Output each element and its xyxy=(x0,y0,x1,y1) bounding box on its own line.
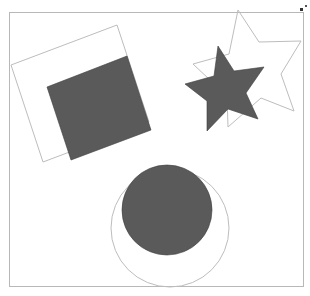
resize-handle-icon[interactable] xyxy=(300,5,307,11)
drawing-canvas[interactable] xyxy=(0,0,310,296)
filled-circle[interactable] xyxy=(122,165,212,255)
filled-star[interactable] xyxy=(185,46,264,131)
filled-square[interactable] xyxy=(47,56,151,160)
